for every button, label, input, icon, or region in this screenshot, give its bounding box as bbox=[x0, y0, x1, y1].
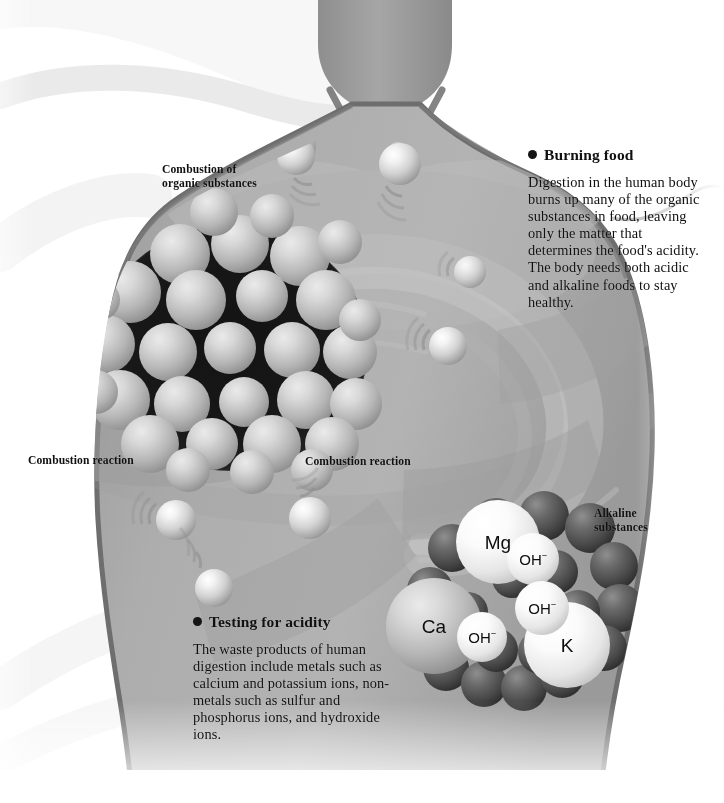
atom-label-mg: Mg bbox=[485, 530, 511, 553]
caption-combustion-of-organic-substances: Combustion of organic substances bbox=[162, 163, 257, 190]
atom-symbol-oh-1: OH bbox=[519, 551, 542, 568]
atom-label-ca: Ca bbox=[422, 614, 446, 637]
burning-food-heading-text: Burning food bbox=[544, 146, 634, 164]
atom-label-hydroxide-1: OH− bbox=[519, 551, 546, 568]
atom-symbol-ca: Ca bbox=[422, 616, 446, 637]
bullet-icon bbox=[193, 617, 202, 626]
bullet-icon bbox=[528, 150, 537, 159]
atom-symbol-k: K bbox=[561, 635, 574, 656]
callout-body-burning-food: Digestion in the human body burns up man… bbox=[528, 174, 700, 311]
callout-heading-burning-food: Burning food bbox=[528, 146, 634, 164]
caption-alkaline-substances: Alkaline substances bbox=[594, 507, 648, 534]
atom-symbol-mg: Mg bbox=[485, 532, 511, 553]
caption-combustion-reaction-left: Combustion reaction bbox=[28, 454, 134, 468]
atom-label-hydroxide-3: OH− bbox=[468, 629, 495, 646]
testing-acidity-heading-text: Testing for acidity bbox=[209, 613, 331, 631]
atom-label-k: K bbox=[561, 633, 574, 656]
atom-charge-oh-1: − bbox=[542, 551, 547, 561]
atom-label-hydroxide-2: OH− bbox=[528, 600, 555, 617]
atom-symbol-oh-3: OH bbox=[468, 629, 491, 646]
illustration-canvas: Burning food Digestion in the human body… bbox=[0, 0, 724, 803]
callout-heading-testing-for-acidity: Testing for acidity bbox=[193, 613, 331, 631]
callout-body-testing-for-acidity: The waste products of human digestion in… bbox=[193, 641, 407, 744]
atom-charge-oh-2: − bbox=[551, 600, 556, 610]
atom-charge-oh-3: − bbox=[491, 629, 496, 639]
caption-combustion-reaction-right: Combustion reaction bbox=[305, 455, 411, 469]
atom-symbol-oh-2: OH bbox=[528, 600, 551, 617]
